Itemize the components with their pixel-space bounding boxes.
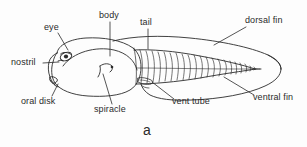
leader-vent-tube: [152, 82, 174, 99]
dorsal-fin-outline: [113, 36, 281, 69]
label-nostril: nostril: [11, 57, 36, 67]
leader-dorsal-fin: [214, 27, 246, 45]
spiracle-dot: [111, 66, 114, 69]
eye-pupil: [64, 54, 68, 58]
spiracle-tube: [98, 66, 100, 77]
fin-tip: [268, 55, 281, 69]
body-outline: [52, 38, 141, 97]
label-spiracle: spiracle: [94, 104, 126, 114]
spiracle-opening: [100, 64, 112, 72]
label-oral-disk: oral disk: [21, 96, 55, 106]
label-body: body: [99, 10, 119, 20]
label-vent-tube: vent tube: [172, 96, 210, 106]
figure-caption: a: [143, 122, 151, 138]
body-tail-junction: [134, 48, 136, 84]
label-eye: eye: [44, 22, 59, 32]
leader-ventral-fin: [224, 77, 254, 95]
label-tail: tail: [140, 17, 152, 27]
label-ventral-fin: ventral fin: [253, 92, 293, 102]
label-dorsal-fin: dorsal fin: [245, 15, 283, 25]
tadpole-anatomy-figure: eye nostril oral disk body spiracle tail…: [0, 0, 307, 147]
leader-spiracle: [103, 74, 112, 104]
leader-nostril: [43, 62, 59, 63]
